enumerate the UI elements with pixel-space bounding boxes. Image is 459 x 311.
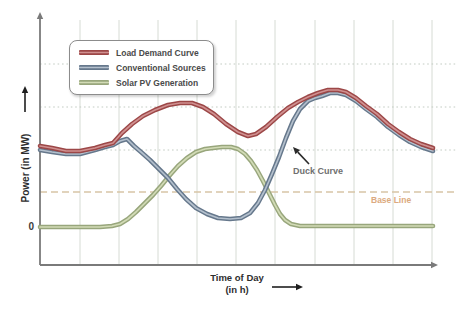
legend-label-load-demand: Load Demand Curve [116,48,199,58]
legend-label-conventional-sources: Conventional Sources [116,63,206,73]
base-line-annotation: Base Line [371,195,411,205]
conventional-sources-swatch-icon [79,65,109,70]
legend-item-load-demand: Load Demand Curve [79,46,205,59]
y-axis-label-arrow-head [22,86,28,93]
duck-curve-chart: Load Demand Curve Conventional Sources S… [0,0,459,311]
x-axis-title: Time of Day (in h) [192,272,282,296]
load-demand-swatch-icon [79,50,109,55]
y-axis-head [37,12,43,19]
x-axis-title-line1: Time of Day [210,272,264,283]
y-axis-title: Power (in MW) [20,134,31,203]
legend: Load Demand Curve Conventional Sources S… [69,40,214,95]
legend-item-conventional-sources: Conventional Sources [79,61,205,74]
y-axis-zero-tick: 0 [18,221,34,232]
legend-item-solar-pv: Solar PV Generation [79,76,205,89]
duck-curve-annotation: Duck Curve [293,166,343,176]
x-axis-label-arrow-head [296,284,303,290]
solar-pv-swatch-icon [79,80,109,85]
x-axis-head [431,262,438,268]
duck-curve-arrow [298,152,309,164]
legend-label-solar-pv: Solar PV Generation [116,78,198,88]
x-axis-title-line2: (in h) [225,284,248,295]
